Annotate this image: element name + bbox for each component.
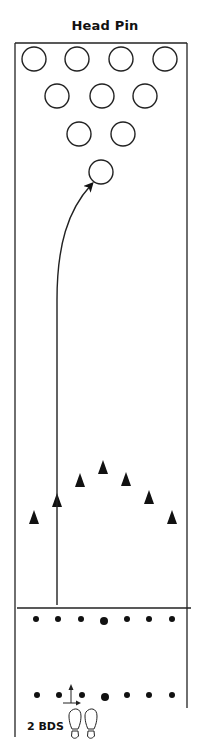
target-arrow-3: [75, 473, 85, 487]
pin-6: [133, 84, 157, 108]
ball-path-arrow: [57, 185, 91, 605]
foul-line-dot-3: [78, 616, 84, 622]
pin-5: [90, 84, 114, 108]
target-arrow-6: [144, 490, 154, 504]
pin-3: [111, 122, 135, 146]
pin-deck: [22, 47, 177, 184]
foul-line-dot-7: [169, 616, 175, 622]
pin-8: [65, 47, 89, 71]
bowling-lane-diagram: [0, 0, 210, 745]
stance-marker: [63, 684, 97, 738]
stance-up-arrow-icon: [69, 684, 74, 703]
foul-line-dot-5: [124, 616, 130, 622]
approach-dot-1: [34, 692, 40, 698]
board-shift-arrow-icon: [63, 701, 81, 706]
board-shift-label: 2 BDS: [27, 720, 64, 733]
approach-dot-4: [101, 693, 109, 701]
target-arrows: [29, 460, 177, 524]
right-footprint-icon: [85, 709, 97, 738]
pin-4: [45, 84, 69, 108]
lane-outline: [15, 43, 191, 737]
approach-dot-6: [146, 692, 152, 698]
target-arrow-7: [167, 510, 177, 524]
approach-dots: [34, 692, 175, 701]
approach-dot-5: [124, 692, 130, 698]
approach-dot-7: [169, 692, 175, 698]
foul-line-dot-2: [55, 616, 61, 622]
left-footprint-icon: [69, 709, 81, 738]
pin-2: [67, 122, 91, 146]
foul-line-dot-1: [33, 616, 39, 622]
pin-9: [109, 47, 133, 71]
pin-7: [22, 47, 46, 71]
head-pin: [89, 160, 113, 184]
foul-line-dot-4: [100, 617, 108, 625]
pin-10: [153, 47, 177, 71]
target-arrow-1: [29, 510, 39, 524]
target-arrow-5: [121, 472, 131, 486]
approach-dot-3: [79, 692, 85, 698]
approach-dot-2: [56, 692, 62, 698]
target-arrow-4: [98, 460, 108, 474]
foul-line-dots: [33, 616, 175, 625]
foul-line-dot-6: [146, 616, 152, 622]
